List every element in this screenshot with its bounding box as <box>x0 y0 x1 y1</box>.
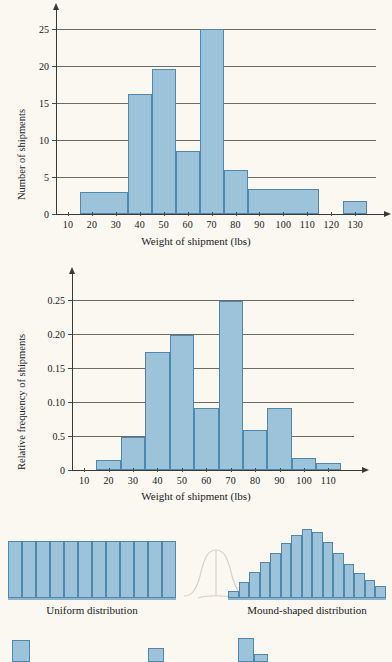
x-axis-tick-label: 30 <box>128 475 138 486</box>
x-axis-tick <box>283 212 284 216</box>
distribution-shape-bar <box>92 541 106 598</box>
uniform-distribution-caption: Uniform distribution <box>8 604 176 616</box>
x-axis-tick-label: 40 <box>152 475 162 486</box>
gridline <box>72 368 354 369</box>
y-axis-tick <box>52 140 56 141</box>
y-axis-tick-label: 10 <box>39 135 49 146</box>
mound-shaped-distribution-figure: Mound-shaped distribution <box>228 524 386 616</box>
x-axis-tick-label: 100 <box>296 475 312 486</box>
x-axis-tick <box>140 212 141 216</box>
histogram-bar <box>243 430 267 470</box>
figure-page: 1020304050607080901001101201300510152025… <box>0 0 392 662</box>
x-axis-tick-label: 70 <box>206 219 216 230</box>
uniform-distribution-bars <box>8 534 176 598</box>
x-axis-tick <box>84 468 85 472</box>
y-axis-tick <box>52 177 56 178</box>
distribution-shape-bar <box>354 573 365 598</box>
y-axis-tick-label: 0 <box>44 209 49 220</box>
x-axis-tick <box>328 468 329 472</box>
gridline <box>72 334 354 335</box>
histogram-bar <box>194 408 218 470</box>
histogram-bar <box>176 151 200 214</box>
distribution-shape-bar <box>50 541 64 598</box>
x-axis-tick-label: 20 <box>103 475 113 486</box>
distribution-shape-bar <box>228 591 239 598</box>
x-axis-arrow-icon <box>384 211 391 217</box>
distribution-shape-bar <box>134 541 148 598</box>
distribution-shape-bar <box>8 541 22 598</box>
y-axis-tick <box>52 29 56 30</box>
x-axis-tick <box>164 212 165 216</box>
x-axis-tick <box>280 468 281 472</box>
histogram-bar <box>267 408 291 470</box>
clipped-bar-right-tall <box>238 638 254 662</box>
y-axis-tick <box>68 368 72 369</box>
next-row-figures-clipped <box>0 638 392 662</box>
x-axis-tick <box>68 212 69 216</box>
frequency-histogram: 1020304050607080901001101201300510152025… <box>0 0 392 250</box>
y-axis-arrow-icon <box>69 267 75 274</box>
distribution-shape-bar <box>64 541 78 598</box>
x-axis-tick <box>116 212 117 216</box>
x-axis-tick-label: 110 <box>300 219 315 230</box>
x-axis-tick-label: 130 <box>347 219 363 230</box>
distribution-shape-bar <box>249 572 260 598</box>
histogram-bar <box>170 335 194 470</box>
relative-frequency-histogram-plot: 10203040506070809010011000.50.100.150.20… <box>0 258 392 508</box>
distribution-shape-bar <box>260 562 271 598</box>
histogram-bar <box>248 189 320 214</box>
uniform-distribution-figure: Uniform distribution <box>8 534 176 616</box>
x-axis-tick-label: 10 <box>79 475 89 486</box>
x-axis-tick-label: 80 <box>250 475 260 486</box>
y-axis-tick <box>52 66 56 67</box>
y-axis-tick <box>68 300 72 301</box>
x-axis-tick <box>231 468 232 472</box>
gridline <box>72 402 354 403</box>
clipped-bar-mid <box>148 648 164 662</box>
x-axis-tick-label: 60 <box>182 219 192 230</box>
histogram-bar <box>121 437 145 470</box>
x-axis-tick-label: 70 <box>226 475 236 486</box>
y-axis-tick-label: 0.20 <box>48 328 66 339</box>
x-axis-tick <box>236 212 237 216</box>
distribution-shape-bar <box>323 542 334 598</box>
distribution-shape-bar <box>78 541 92 598</box>
y-axis-tick <box>52 214 56 215</box>
distribution-shape-bar <box>291 535 302 598</box>
histogram-bar <box>219 301 243 470</box>
mound-shaped-distribution-bars <box>228 524 386 598</box>
x-axis-tick-label: 40 <box>135 219 145 230</box>
relative-frequency-histogram-x-axis-title: Weight of shipment (lbs) <box>0 490 392 502</box>
x-axis-tick-label: 20 <box>87 219 97 230</box>
mound-shaped-distribution-baseline <box>228 598 386 600</box>
x-axis-tick <box>212 212 213 216</box>
x-axis-tick <box>109 468 110 472</box>
mound-shaped-distribution-caption: Mound-shaped distribution <box>228 604 386 616</box>
x-axis-tick-label: 110 <box>321 475 336 486</box>
y-axis-tick-label: 0.15 <box>48 362 66 373</box>
x-axis-tick <box>92 212 93 216</box>
histogram-bar <box>224 170 248 214</box>
x-axis <box>56 214 384 215</box>
y-axis <box>56 10 57 214</box>
gridline <box>72 300 354 301</box>
distribution-shape-bar <box>344 564 355 598</box>
y-axis-tick <box>68 436 72 437</box>
x-axis-tick-label: 100 <box>276 219 292 230</box>
distribution-shape-bar <box>22 541 36 598</box>
x-axis-tick-label: 90 <box>254 219 264 230</box>
x-axis-tick <box>206 468 207 472</box>
y-axis-tick-label: 20 <box>39 61 49 72</box>
histogram-bar <box>152 69 176 214</box>
x-axis-tick <box>255 468 256 472</box>
relative-frequency-histogram: 10203040506070809010011000.50.100.150.20… <box>0 258 392 508</box>
histogram-bar <box>145 352 169 470</box>
distribution-shape-bar <box>312 532 323 598</box>
y-axis-tick-label: 5 <box>44 172 49 183</box>
distribution-shape-bar <box>148 541 162 598</box>
distribution-shape-bar <box>120 541 134 598</box>
distribution-shape-bar <box>365 580 376 598</box>
x-axis-tick <box>182 468 183 472</box>
clipped-bar-left <box>12 640 30 662</box>
frequency-histogram-x-axis-title: Weight of shipment (lbs) <box>0 235 392 247</box>
